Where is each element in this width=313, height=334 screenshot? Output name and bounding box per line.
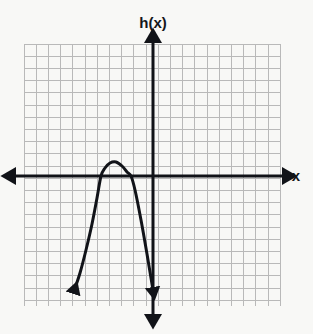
figure-background <box>0 0 313 334</box>
x-axis-label: x <box>292 167 301 184</box>
coordinate-plane-graph: h(x) x <box>0 0 313 334</box>
graph-figure: h(x) x <box>0 0 313 334</box>
y-axis-label: h(x) <box>139 14 167 31</box>
